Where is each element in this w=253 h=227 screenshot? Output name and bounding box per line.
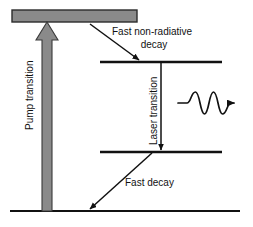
- pump-transition-arrow: [36, 22, 58, 211]
- pump-band-level: [12, 10, 137, 22]
- laser-transition-label: Laser transition: [148, 77, 159, 145]
- fast-non-radiative-decay-label-line1: Fast non-radiative: [112, 26, 192, 37]
- diagram-canvas: Pump transition Fast non-radiative decay…: [0, 0, 253, 227]
- pump-transition-label: Pump transition: [24, 61, 35, 130]
- emitted-photon-wave: [178, 92, 234, 114]
- fast-non-radiative-decay-label-line2: decay: [141, 39, 168, 50]
- energy-level-diagram: Pump transition Fast non-radiative decay…: [0, 0, 253, 227]
- fast-decay-label: Fast decay: [125, 177, 174, 188]
